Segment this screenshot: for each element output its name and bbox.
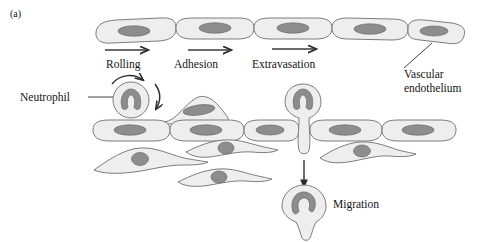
endothelial-cell [310, 120, 382, 141]
adhesion-curved-arrow [155, 84, 160, 109]
vascular-endothelium-leader [404, 43, 432, 68]
process-arrows [105, 49, 316, 50]
label-migration: Migration [333, 198, 379, 211]
tissue-cell [178, 169, 272, 187]
label-extravasation: Extravasation [252, 58, 315, 70]
neutrophil-extravasating [285, 84, 321, 154]
endothelial-cell [170, 120, 244, 141]
endothelial-cell [382, 120, 456, 141]
endothelial-cell [176, 18, 254, 39]
extravasation-diagram: Rolling Adhesion Extravasation Vascular … [0, 0, 477, 242]
tissue-cell [186, 140, 278, 157]
label-adhesion: Adhesion [174, 58, 218, 70]
label-rolling: Rolling [106, 58, 141, 71]
figure-panel-a: Rolling Adhesion Extravasation Vascular … [0, 0, 477, 242]
panel-label: (a) [10, 8, 21, 20]
endothelial-cell [254, 18, 332, 39]
neutrophil-migrating [282, 185, 326, 240]
neutrophil-rolling [113, 82, 149, 118]
endothelial-cell [96, 18, 176, 43]
tissue-cell [320, 142, 416, 163]
label-vascular-endothelium-line1: Vascular [404, 68, 444, 80]
endothelial-cell [332, 18, 408, 40]
bottom-endothelium-row [93, 120, 456, 141]
endothelial-cell [408, 20, 465, 44]
tissue-cells [94, 140, 416, 187]
endothelial-cell [244, 120, 299, 141]
top-endothelium-row [96, 18, 465, 44]
endothelial-cell [93, 120, 170, 141]
label-vascular-endothelium-line2: endothelium [404, 82, 462, 94]
label-neutrophil: Neutrophil [20, 91, 70, 104]
